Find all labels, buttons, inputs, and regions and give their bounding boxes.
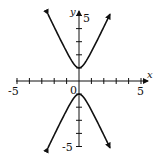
origin-label: 0 <box>70 84 77 97</box>
y-min-label: -5 <box>62 141 73 154</box>
x-min-label: -5 <box>8 85 19 98</box>
x-max-label: 5 <box>137 85 144 98</box>
y-max-label: 5 <box>83 12 90 25</box>
y-axis-label: y <box>69 6 76 17</box>
x-axis-label: x <box>147 69 153 80</box>
hyperbola-graph: x y -5 5 5 -5 0 <box>0 0 158 160</box>
